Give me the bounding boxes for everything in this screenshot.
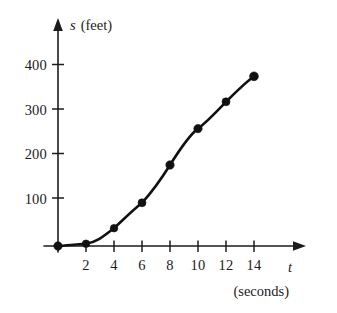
y-axis-arrow-icon [53, 18, 63, 31]
data-point-t14 [250, 72, 259, 81]
y-axis-unit: (feet) [81, 17, 113, 34]
data-point-t12 [222, 98, 230, 106]
x-tick-label-14: 14 [247, 257, 262, 273]
data-points [54, 72, 259, 250]
x-tick-label-2: 2 [82, 257, 89, 273]
x-tick-label-8: 8 [166, 257, 173, 273]
x-axis-variable: t [288, 259, 293, 275]
x-tick-label-10: 10 [191, 257, 206, 273]
y-axis-title: s(feet) [70, 17, 112, 34]
x-tick-label-4: 4 [110, 257, 118, 273]
data-point-t4 [110, 224, 118, 232]
chart-figure: 400 300 200 100 2 4 6 8 10 12 14 s(fe [0, 0, 337, 313]
y-axis-tick-labels: 400 300 200 100 [25, 57, 47, 207]
data-point-t6 [138, 199, 146, 207]
y-axis-variable: s [70, 17, 76, 33]
x-axis-unit: (seconds) [233, 283, 289, 300]
distance-time-plot: 400 300 200 100 2 4 6 8 10 12 14 s(fe [0, 0, 337, 313]
x-tick-label-6: 6 [138, 257, 145, 273]
x-axis-arrow-icon [293, 241, 306, 251]
x-tick-label-12: 12 [219, 257, 234, 273]
x-axis-tick-labels: 2 4 6 8 10 12 14 [82, 257, 262, 273]
y-tick-label-100: 100 [25, 191, 47, 207]
data-point-t10 [194, 124, 202, 132]
data-point-t0 [54, 242, 62, 250]
data-point-t2 [82, 240, 90, 248]
y-tick-label-200: 200 [25, 146, 47, 162]
y-tick-label-300: 300 [25, 102, 47, 118]
y-tick-label-400: 400 [25, 57, 47, 73]
data-point-t8 [166, 161, 174, 169]
